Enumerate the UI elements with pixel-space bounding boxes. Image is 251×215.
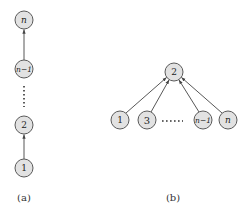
node-a-2-label: 2 (21, 120, 27, 130)
diagram-a: n n−1 2 1 (a) (15, 11, 33, 203)
edge-b-nminus1-to-2 (179, 80, 199, 112)
node-b-1: 1 (111, 111, 129, 129)
diagram-b: 2 1 3 n−1 n (b) (111, 63, 237, 203)
diagram-canvas: n n−1 2 1 (a) 2 (0, 0, 251, 215)
caption-a: (a) (17, 192, 31, 203)
node-b-1-label: 1 (117, 115, 123, 125)
node-b-n-label: n (225, 115, 231, 125)
node-a-n-minus-1-label: n−1 (16, 65, 32, 74)
node-b-3-label: 3 (144, 115, 150, 126)
node-a-n-minus-1: n−1 (15, 60, 33, 78)
node-a-2: 2 (15, 116, 33, 134)
node-a-1: 1 (15, 159, 33, 177)
edge-b-n-to-2 (182, 78, 223, 114)
node-b-3: 3 (138, 111, 156, 129)
node-a-n-label: n (21, 15, 27, 25)
node-a-1-label: 1 (21, 163, 27, 173)
caption-b: (b) (166, 192, 180, 203)
graph-figure: n n−1 2 1 (a) 2 (0, 0, 251, 215)
node-a-n: n (15, 11, 33, 29)
node-b-n-minus-1-label: n−1 (195, 116, 211, 125)
node-b-2-label: 2 (171, 67, 177, 77)
node-b-n-minus-1: n−1 (194, 111, 212, 129)
node-b-n: n (219, 111, 237, 129)
edge-b-3-to-2 (151, 80, 169, 112)
node-b-2: 2 (165, 63, 183, 81)
